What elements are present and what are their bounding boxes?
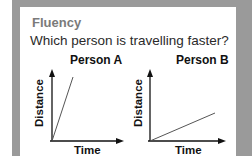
frame-right-bar xyxy=(236,0,252,156)
graph-b-svg xyxy=(136,53,236,156)
x-axis-arrow xyxy=(116,138,124,144)
y-axis-arrow xyxy=(49,69,55,77)
y-axis-label: Distance xyxy=(132,79,144,127)
graph-a-svg xyxy=(30,53,130,156)
question-text: Which person is travelling faster? xyxy=(30,33,229,48)
frame-left-bar xyxy=(12,0,20,156)
section-heading: Fluency xyxy=(32,15,81,30)
x-axis-arrow xyxy=(218,138,226,144)
y-axis-label: Distance xyxy=(33,79,45,127)
data-line xyxy=(52,77,73,141)
question-card: Fluency Which person is travelling faste… xyxy=(20,7,236,156)
x-axis-label: Time xyxy=(175,144,202,156)
data-line xyxy=(150,113,215,141)
x-axis-label: Time xyxy=(74,144,101,156)
frame-top-band xyxy=(12,0,252,7)
graph-person-b: Person B Distance Time xyxy=(136,53,236,156)
y-axis-arrow xyxy=(147,69,153,77)
graph-person-a: Person A Distance Time xyxy=(30,53,130,156)
